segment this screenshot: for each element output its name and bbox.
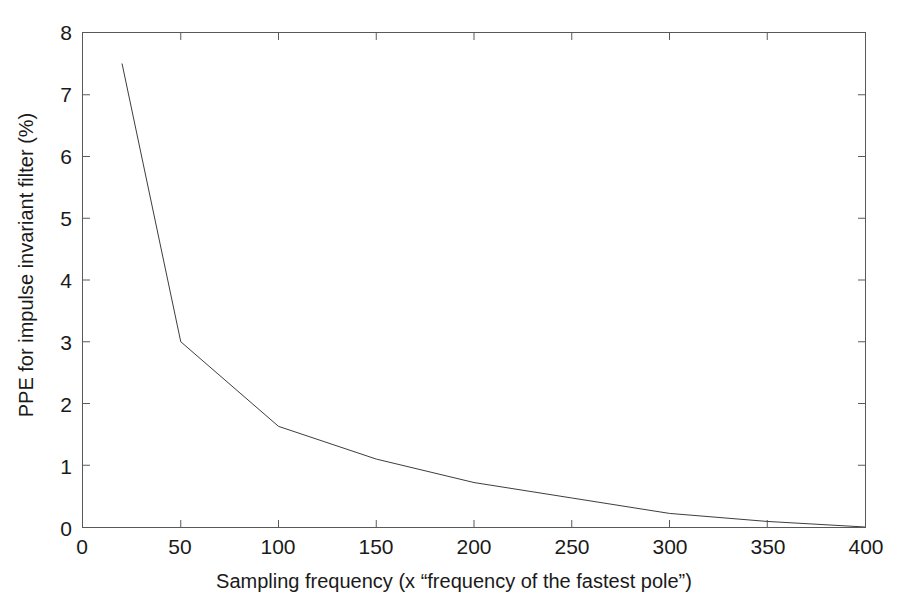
x-axis-tick-labels: 050100150200250300350400 <box>82 536 866 566</box>
y-tick-label: 4 <box>60 270 72 291</box>
plot-area <box>82 32 866 528</box>
x-tick-label: 250 <box>554 536 589 557</box>
x-tick-label: 0 <box>76 536 88 557</box>
y-axis-label: PPE for impulse invariant filter (%) <box>15 113 38 418</box>
data-line-0 <box>122 64 865 527</box>
x-axis-label: Sampling frequency (x “frequency of the … <box>0 570 908 593</box>
x-tick-label: 350 <box>750 536 785 557</box>
x-tick-label: 100 <box>260 536 295 557</box>
x-tick-label: 150 <box>358 536 393 557</box>
y-tick-label: 3 <box>60 332 72 353</box>
y-tick-label: 8 <box>60 22 72 43</box>
data-series-group <box>122 64 865 527</box>
y-tick-label: 5 <box>60 208 72 229</box>
y-axis-label-wrapper: PPE for impulse invariant filter (%) <box>11 17 41 513</box>
y-tick-label: 1 <box>60 456 72 477</box>
x-tick-label: 300 <box>652 536 687 557</box>
y-tick-label: 0 <box>60 518 72 539</box>
x-tick-label: 200 <box>456 536 491 557</box>
y-tick-label: 2 <box>60 394 72 415</box>
tick-marks <box>83 33 865 527</box>
x-tick-label: 50 <box>168 536 191 557</box>
y-tick-label: 6 <box>60 146 72 167</box>
y-tick-label: 7 <box>60 84 72 105</box>
chart-figure: 012345678 050100150200250300350400 Sampl… <box>0 0 908 609</box>
plot-svg <box>83 33 865 527</box>
x-tick-label: 400 <box>848 536 883 557</box>
